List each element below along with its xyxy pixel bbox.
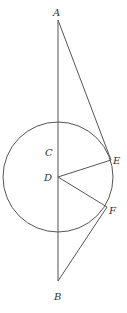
label-e: E [112,155,121,166]
segment-df [58,177,107,207]
label-b: B [53,291,61,302]
geometry-diagram: A C D E F B [0,0,127,313]
label-f: F [108,205,117,216]
segment-de [58,160,111,177]
segment-ae [58,20,111,160]
label-a: A [52,7,60,18]
label-d: D [43,172,52,183]
segment-bf [58,207,107,281]
label-c: C [45,147,53,158]
